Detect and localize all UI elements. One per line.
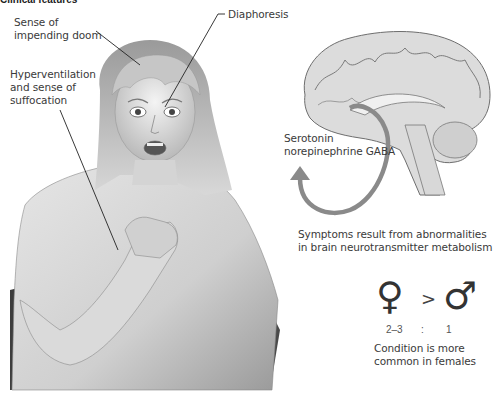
brain-sagittal-illustration bbox=[304, 32, 490, 196]
label-neurotransmitters: Serotonin norepinephrine GABA bbox=[284, 132, 395, 158]
label-diaphoresis: Diaphoresis bbox=[228, 8, 289, 21]
cycle-arrowhead-icon bbox=[290, 166, 310, 180]
illustration bbox=[0, 0, 500, 395]
male-ratio-value: 1 bbox=[446, 324, 452, 335]
female-ratio-value: 2–3 bbox=[386, 324, 403, 335]
label-hyperventilation: Hyperventilation and sense of suffocatio… bbox=[10, 68, 96, 107]
label-condition-note: Condition is more common in females bbox=[374, 342, 476, 368]
female-symbol-icon: ♀ bbox=[376, 276, 404, 316]
ratio-separator: : bbox=[421, 324, 424, 335]
label-symptoms-cause: Symptoms result from abnormalities in br… bbox=[298, 228, 492, 254]
greater-than-sign: > bbox=[421, 288, 436, 309]
label-sense-of-impending-doom: Sense of impending doom bbox=[14, 16, 102, 42]
male-symbol-icon: ♂ bbox=[443, 276, 477, 316]
